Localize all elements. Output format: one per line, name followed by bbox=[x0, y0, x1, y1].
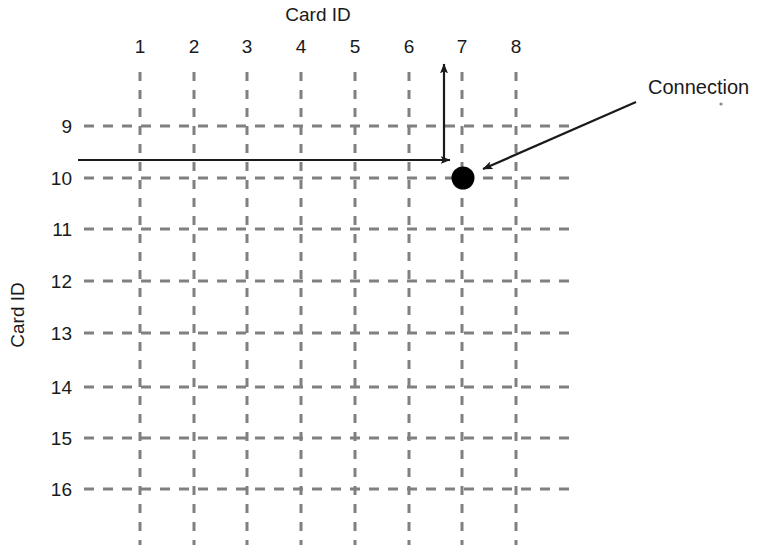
left-axis-title: Card ID bbox=[7, 282, 28, 347]
connection-node-dot[interactable] bbox=[452, 167, 475, 190]
row-tick-label-14: 14 bbox=[51, 377, 73, 398]
card-id-grid-diagram: Card ID 1 2 3 4 5 6 7 8 bbox=[0, 0, 757, 560]
horizontal-gridlines bbox=[84, 126, 570, 489]
row-tick-label-10: 10 bbox=[51, 168, 72, 189]
scan-speck bbox=[719, 102, 722, 105]
column-tick-label-1: 1 bbox=[135, 36, 146, 57]
row-tick-label-9: 9 bbox=[61, 116, 72, 137]
diagram-canvas: Card ID 1 2 3 4 5 6 7 8 bbox=[0, 0, 757, 560]
column-tick-label-7: 7 bbox=[457, 36, 468, 57]
row-tick-label-15: 15 bbox=[51, 428, 72, 449]
row-tick-label-12: 12 bbox=[51, 271, 72, 292]
column-tick-label-3: 3 bbox=[242, 36, 253, 57]
row-tick-label-13: 13 bbox=[51, 323, 72, 344]
column-tick-label-6: 6 bbox=[404, 36, 415, 57]
column-tick-label-2: 2 bbox=[189, 36, 200, 57]
top-axis-title: Card ID bbox=[285, 4, 350, 25]
column-tick-label-4: 4 bbox=[296, 36, 307, 57]
column-tick-label-5: 5 bbox=[350, 36, 361, 57]
connection-leader-line bbox=[483, 102, 636, 169]
vertical-gridlines bbox=[140, 72, 516, 545]
column-tick-label-8: 8 bbox=[511, 36, 522, 57]
row-tick-label-11: 11 bbox=[52, 219, 72, 240]
connection-label: Connection bbox=[648, 76, 749, 98]
row-tick-label-16: 16 bbox=[51, 479, 72, 500]
